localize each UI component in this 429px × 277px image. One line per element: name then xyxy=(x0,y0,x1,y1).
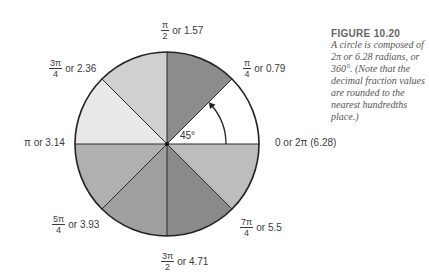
label-pi-over-2: π2 or 1.57 xyxy=(161,20,203,41)
figure-caption: FIGURE 10.20 A circle is composed of 2π … xyxy=(331,28,429,123)
fraction: 5π4 xyxy=(52,214,65,235)
label-3pi-over-2: 3π2 or 4.71 xyxy=(161,251,208,272)
label-7pi-over-4: 7π4 or 5.5 xyxy=(240,217,282,238)
label-zero-2pi: 0 or 2π (6.28) xyxy=(275,137,336,148)
center-point xyxy=(165,142,169,146)
label-5pi-over-4: 5π4 or 3.93 xyxy=(52,214,99,235)
angle-45-label: 45° xyxy=(180,130,195,141)
fraction: π4 xyxy=(243,58,251,79)
fraction: 3π4 xyxy=(49,58,62,79)
figure-title: FIGURE 10.20 xyxy=(331,28,429,39)
fraction: 7π4 xyxy=(240,217,253,238)
label-pi-over-4: π4 or 0.79 xyxy=(243,58,285,79)
figure-caption-text: A circle is composed of 2π or 6.28 radia… xyxy=(331,39,429,123)
fraction: 3π2 xyxy=(161,251,174,272)
label-3pi-over-4: 3π4 or 2.36 xyxy=(49,58,96,79)
label-pi: π or 3.14 xyxy=(24,137,65,148)
fraction: π2 xyxy=(161,20,169,41)
